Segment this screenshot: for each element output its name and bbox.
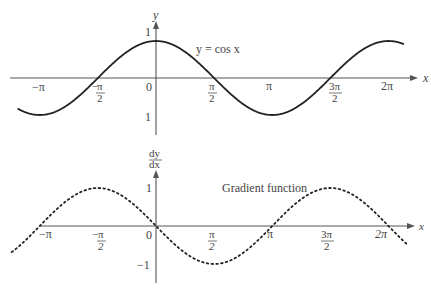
top-tick-three-half-pi-num: 3π xyxy=(329,80,341,92)
bottom-tick-half-pi-den: 2 xyxy=(209,240,215,252)
bottom-curve-label: Gradient function xyxy=(222,181,307,195)
bottom-tick-pi: π xyxy=(267,227,273,241)
bottom-tick-two-pi: 2π xyxy=(375,227,388,241)
bottom-y-label-den: dx xyxy=(149,158,161,170)
top-graph: y x y = cos x 1 1 0 −π − π 2 π 2 π 3π 2 … xyxy=(10,8,429,135)
bottom-tick-three-half-pi-den: 2 xyxy=(324,240,330,252)
bottom-tick-y-neg1: −1 xyxy=(137,258,150,272)
bottom-tick-half-pi-num: π xyxy=(209,228,215,240)
top-y-axis-label: y xyxy=(152,8,159,22)
bottom-origin-label: 0 xyxy=(146,228,152,242)
top-tick-neg-half-pi-num: π xyxy=(97,80,103,92)
bottom-tick-y-1: 1 xyxy=(146,181,152,195)
bottom-x-arrow-icon xyxy=(407,223,415,229)
top-curve-label: y = cos x xyxy=(196,42,240,56)
top-tick-half-pi-num: π xyxy=(209,80,215,92)
top-tick-neg-pi: −π xyxy=(32,80,45,94)
bottom-x-axis-label: x xyxy=(418,220,424,232)
bottom-tick-neg-pi: −π xyxy=(39,227,52,241)
bottom-tick-neg-half-pi-num: π xyxy=(98,228,104,240)
bottom-graph: dy dx x Gradient function 1 −1 0 −π − π … xyxy=(12,147,424,283)
top-x-arrow-icon xyxy=(410,75,418,81)
top-y-arrow-icon xyxy=(153,21,159,29)
top-tick-y-1: 1 xyxy=(145,25,151,39)
top-tick-pi: π xyxy=(266,79,272,93)
top-tick-three-half-pi-den: 2 xyxy=(332,92,338,104)
top-origin-label: 0 xyxy=(146,80,152,94)
top-tick-half-pi-den: 2 xyxy=(209,92,215,104)
bottom-y-arrow-icon xyxy=(153,170,159,178)
top-tick-neg-half-pi-den: 2 xyxy=(97,92,103,104)
top-tick-y-neg1: 1 xyxy=(145,110,151,124)
top-x-axis-label: x xyxy=(422,71,429,85)
bottom-tick-neg-half-pi-den: 2 xyxy=(98,240,104,252)
top-tick-two-pi: 2π xyxy=(381,79,393,93)
bottom-tick-three-half-pi-num: 3π xyxy=(321,228,333,240)
diagram-canvas: y x y = cos x 1 1 0 −π − π 2 π 2 π 3π 2 … xyxy=(0,0,431,293)
